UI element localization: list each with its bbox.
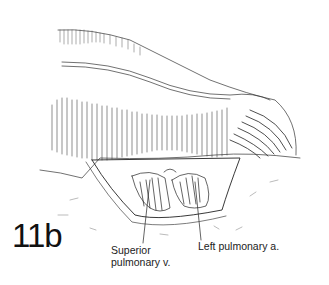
lower-tissue-line — [40, 154, 300, 178]
annotation-line-1: Left pulmonary a. — [198, 240, 279, 252]
leader-line-left-pulmonary-a — [195, 182, 201, 240]
annotation-line-1: Superior — [111, 244, 170, 256]
figure-label: 11b — [12, 219, 62, 252]
leader-line-superior-pulmonary-v — [143, 180, 150, 243]
annotation-line-2: pulmonary v. — [111, 256, 170, 268]
annotation-superior-pulmonary-vein: Superior pulmonary v. — [111, 244, 170, 268]
annotation-left-pulmonary-artery: Left pulmonary a. — [198, 240, 279, 252]
surgical-window — [92, 158, 240, 218]
